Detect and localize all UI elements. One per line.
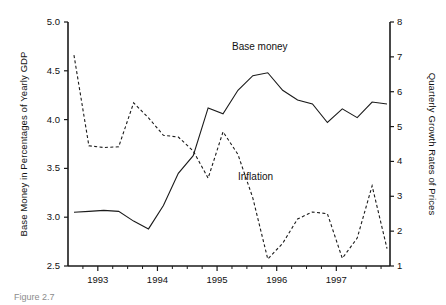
axis-spines: [68, 22, 390, 266]
left-tick-label-4-0: 4.0: [30, 114, 60, 125]
left-tick-label-2-5: 2.5: [30, 260, 60, 271]
right-tick-label-6: 6: [397, 86, 419, 97]
left-tick-label-3-5: 3.5: [30, 162, 60, 173]
right-tick-label-2: 2: [397, 225, 419, 236]
chart-plot-area: [0, 0, 446, 305]
series-line-base-money: [74, 73, 387, 229]
x-tick-label-1995: 1995: [194, 274, 240, 285]
figure-caption: Figure 2.7: [14, 292, 55, 302]
right-tick-label-1: 1: [397, 260, 419, 271]
right-tick-label-5: 5: [397, 121, 419, 132]
left-tick-label-3-0: 3.0: [30, 211, 60, 222]
left-tick-label-5-0: 5.0: [30, 16, 60, 27]
right-tick-label-3: 3: [397, 190, 419, 201]
left-tick-label-4-5: 4.5: [30, 65, 60, 76]
right-tick-label-7: 7: [397, 51, 419, 62]
x-tick-label-1996: 1996: [254, 274, 300, 285]
figure-container: Base Money in Percentages of Yearly GDP …: [0, 0, 446, 305]
x-tick-label-1997: 1997: [313, 274, 359, 285]
series-line-inflation: [74, 55, 387, 259]
series-annotation-base-money: Base money: [232, 41, 288, 52]
x-tick-label-1993: 1993: [75, 274, 121, 285]
right-tick-label-4: 4: [397, 155, 419, 166]
x-tick-label-1994: 1994: [134, 274, 180, 285]
right-tick-label-8: 8: [397, 16, 419, 27]
series-annotation-inflation: Inflation: [238, 171, 273, 182]
